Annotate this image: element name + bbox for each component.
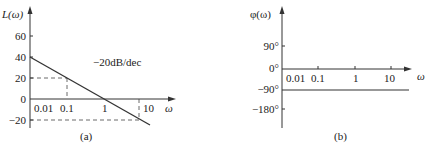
caption-b: (b): [334, 130, 347, 143]
phase-plot: φ(ω) 90° 0° −90° −180° 0.01 0.1 1 10 ω (…: [250, 6, 425, 143]
x-label-a: ω: [165, 102, 173, 114]
x-label-b: ω: [417, 70, 425, 82]
ytick-60: 60: [15, 30, 27, 42]
xtick-0.1: 0.1: [60, 102, 74, 114]
ytick-20: 20: [15, 72, 27, 84]
xtick-0.01: 0.01: [34, 102, 53, 114]
ytick-40: 40: [15, 51, 27, 63]
ytick-neg90: −90°: [257, 83, 279, 95]
ytick-90: 90°: [264, 40, 279, 52]
xtick-b-0.01: 0.01: [286, 72, 305, 84]
ytick-neg180: −180°: [252, 103, 279, 115]
slope-annotation: −20dB/dec: [93, 56, 141, 68]
ytick-neg20: −20: [9, 114, 27, 126]
y-axis-arrow-icon: [28, 6, 33, 14]
magnitude-plot: L(ω) 60 40 20 0 −20 0.01 0.1 1 10 ω −20d…: [1, 6, 176, 143]
y-axis-arrow-icon: [280, 6, 285, 14]
xtick-10: 10: [143, 102, 155, 114]
bode-plots: L(ω) 60 40 20 0 −20 0.01 0.1 1 10 ω −20d…: [0, 0, 431, 148]
x-axis-arrow-icon: [404, 67, 412, 72]
y-label-b: φ(ω): [250, 8, 271, 21]
ytick-0: 0: [21, 93, 27, 105]
caption-a: (a): [80, 130, 93, 143]
xtick-1: 1: [102, 102, 108, 114]
x-axis-arrow-icon: [168, 97, 176, 102]
xtick-b-0.1: 0.1: [311, 72, 325, 84]
xtick-b-10: 10: [384, 72, 396, 84]
y-label-a: L(ω): [1, 8, 24, 21]
ytick-0deg: 0°: [269, 62, 279, 74]
xtick-b-1: 1: [353, 72, 359, 84]
